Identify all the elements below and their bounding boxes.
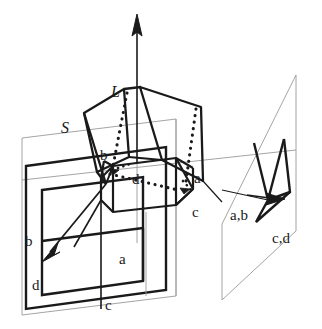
label-left-plane-c: c [105, 297, 112, 313]
geometry-diagram: L S b d a c b a d c a,b c,d [0, 0, 322, 329]
label-line-L: L [110, 83, 120, 100]
label-left-plane-d: d [32, 277, 40, 293]
label-right-plane-ab: a,b [230, 207, 248, 223]
label-surface-corner-c: c [192, 204, 199, 220]
label-surface-S: S [61, 119, 69, 136]
label-surface-corner-a: a [194, 170, 201, 186]
label-surface-corner-d: d [132, 171, 140, 187]
label-right-plane-cd: c,d [272, 230, 290, 246]
label-left-plane-a: a [119, 251, 126, 267]
label-surface-corner-b: b [100, 147, 108, 163]
label-left-plane-b: b [25, 233, 33, 249]
figure-container: L S b d a c b a d c a,b c,d [0, 0, 322, 329]
